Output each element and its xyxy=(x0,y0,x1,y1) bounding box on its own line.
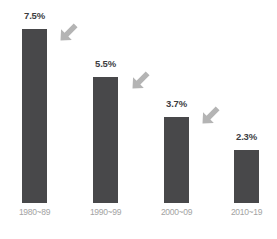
bar-2[interactable] xyxy=(93,77,118,203)
bar-group-4: 2.3% 2010~19 xyxy=(234,0,259,203)
bar-group-2: 5.5% 1990~99 xyxy=(93,0,118,203)
bar-4[interactable] xyxy=(234,150,259,203)
bar-1[interactable] xyxy=(22,29,47,203)
category-label-4: 2010~19 xyxy=(231,207,262,217)
value-label-3: 3.7% xyxy=(166,98,187,109)
bar-group-1: 7.5% 1980~89 xyxy=(22,0,47,203)
category-label-2: 1990~99 xyxy=(90,207,121,217)
value-label-2: 5.5% xyxy=(95,58,116,69)
decline-arrow-1-icon xyxy=(55,20,81,46)
bar-3[interactable] xyxy=(164,117,189,203)
bar-group-3: 3.7% 2000~09 xyxy=(164,0,189,203)
category-label-1: 1980~89 xyxy=(19,207,50,217)
decline-arrow-3-icon xyxy=(197,103,223,129)
bar-chart: 7.5% 1980~89 5.5% 1990~99 xyxy=(0,0,277,239)
decline-arrow-2-icon xyxy=(127,68,153,94)
plot-area: 7.5% 1980~89 5.5% 1990~99 xyxy=(0,0,277,239)
value-label-4: 2.3% xyxy=(236,131,257,142)
category-label-3: 2000~09 xyxy=(161,207,192,217)
value-label-1: 7.5% xyxy=(24,10,45,21)
